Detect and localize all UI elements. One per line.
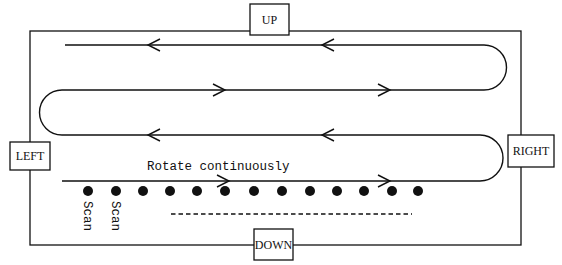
scan-point	[138, 186, 148, 196]
scan-points	[83, 186, 423, 196]
down-label: DOWN	[255, 238, 293, 252]
scan-point	[277, 186, 287, 196]
scan-label: Scan	[108, 201, 122, 231]
scan-point	[413, 186, 423, 196]
scan-point	[332, 186, 342, 196]
scan-point	[83, 186, 93, 196]
scan-point	[220, 186, 230, 196]
scan-point	[305, 186, 315, 196]
scan-point	[249, 186, 259, 196]
scan-point	[111, 186, 121, 196]
right-label: RIGHT	[513, 144, 550, 158]
rotate-annotation: Rotate continuously	[147, 160, 290, 174]
outer-frame	[30, 31, 521, 245]
up-box: UP	[250, 4, 289, 35]
scan-path-diagram: UP DOWN LEFT RIGHT Rotate continuously	[0, 0, 562, 265]
down-box: DOWN	[254, 229, 293, 260]
scan-point	[165, 186, 175, 196]
left-label: LEFT	[16, 149, 45, 163]
left-box: LEFT	[10, 142, 50, 170]
scan-point	[359, 186, 369, 196]
scan-label: Scan	[80, 201, 94, 231]
scan-point	[387, 186, 397, 196]
up-label: UP	[262, 13, 278, 27]
scan-point	[192, 186, 202, 196]
right-box: RIGHT	[508, 135, 554, 167]
